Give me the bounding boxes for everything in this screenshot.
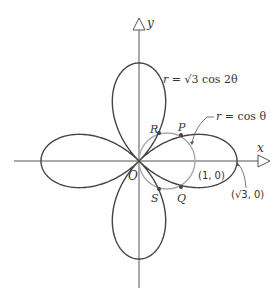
circle-label-leader	[192, 117, 214, 142]
y-axis-arrow-icon	[133, 18, 145, 30]
origin-label: O	[128, 169, 138, 183]
point-q	[179, 185, 183, 189]
rose-equation-label: r = √3 cos 2θ	[163, 73, 238, 86]
label-q: Q	[177, 192, 186, 205]
circle-equation-label: r = cos θ	[216, 110, 266, 123]
one-zero-label: (1, 0)	[198, 170, 225, 181]
leader-arrow-icon	[190, 141, 194, 145]
point-s	[157, 187, 161, 191]
x-axis-arrow-icon	[258, 155, 270, 167]
label-p: P	[177, 121, 186, 134]
y-axis-label: y	[146, 16, 154, 30]
x-axis-label: x	[257, 141, 264, 155]
label-s: S	[151, 192, 159, 205]
label-r: R	[149, 123, 158, 136]
sqrt3-leader	[238, 164, 246, 188]
sqrt3-zero-label: (√3, 0)	[231, 189, 264, 200]
polar-diagram: y x O R P S Q r = √3 cos 2θ r = cos θ (1…	[0, 0, 278, 298]
